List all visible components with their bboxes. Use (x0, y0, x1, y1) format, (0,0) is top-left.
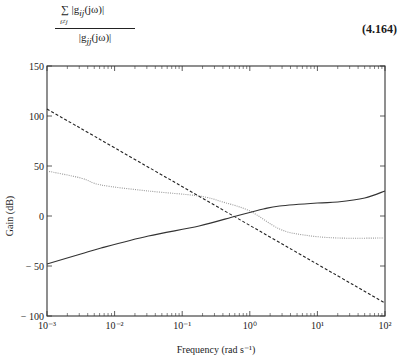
x-tick-label: 10⁻² (106, 320, 124, 331)
series-dashed-line (47, 109, 385, 303)
y-tick-label: 50 (34, 161, 44, 172)
y-tick-label: 0 (39, 211, 44, 222)
x-tick-label: 10⁻¹ (173, 320, 191, 331)
plot-frame (47, 66, 385, 316)
x-axis-label: Frequency (rad s⁻¹) (177, 344, 256, 356)
series-solid-line (47, 191, 385, 264)
y-tick-label: 100 (29, 111, 44, 122)
y-tick-label: 150 (29, 61, 44, 72)
axis-ticks: 10⁻³10⁻²10⁻¹10⁰10¹10²150100500− 50− 100 (21, 61, 392, 332)
x-tick-label: 10⁰ (243, 320, 257, 331)
plot-series (47, 109, 385, 303)
x-tick-label: 10¹ (311, 320, 324, 331)
y-axis-label: Gain (dB) (4, 196, 16, 236)
gain-chart: 10⁻³10⁻²10⁻¹10⁰10¹10²150100500− 50− 100 … (0, 0, 411, 361)
y-tick-label: − 100 (21, 311, 44, 322)
y-tick-label: − 50 (26, 261, 44, 272)
plot-border (47, 66, 385, 316)
x-tick-label: 10² (379, 320, 392, 331)
x-tick-label: 10⁻³ (38, 320, 56, 331)
series-dotted-line (47, 171, 385, 238)
